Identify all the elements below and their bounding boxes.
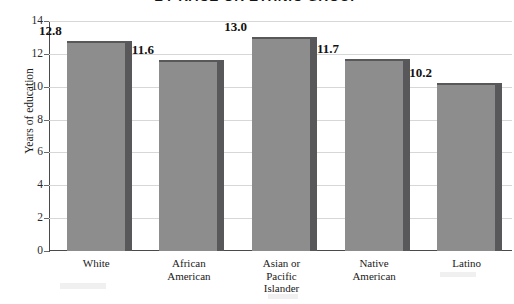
x-category-label-line: American	[143, 270, 236, 283]
bar-face	[345, 59, 410, 251]
x-category-label-line: Islander	[235, 282, 328, 295]
bar	[252, 37, 317, 251]
bar-top-edge	[159, 60, 224, 62]
y-tick-mark	[44, 218, 49, 219]
bar-value-label: 13.0	[203, 20, 268, 33]
y-tick-label: 2	[19, 212, 43, 224]
y-tick-mark	[44, 120, 49, 121]
bar-top-edge	[437, 83, 502, 85]
y-tick-mark	[44, 152, 49, 153]
x-category-label-line: White	[50, 257, 143, 270]
bar	[345, 59, 410, 251]
bar-value-label: 11.7	[296, 42, 361, 55]
y-tick-mark	[44, 251, 49, 252]
y-tick-mark	[44, 54, 49, 55]
y-tick-mark	[44, 87, 49, 88]
y-tick-label: 8	[19, 114, 43, 126]
x-category-label: White	[50, 257, 143, 270]
x-category-label: AfricanAmerican	[143, 257, 236, 282]
bar-side-face	[310, 37, 317, 251]
y-tick-mark	[44, 185, 49, 186]
x-category-label-line: Native	[328, 257, 421, 270]
y-tick-mark	[44, 21, 49, 22]
bar-side-face	[403, 59, 410, 251]
bar-top-edge	[67, 41, 132, 43]
y-tick-label: 6	[19, 146, 43, 158]
bar-face	[437, 83, 502, 251]
bar-face	[67, 41, 132, 251]
bar-face	[252, 37, 317, 251]
bar-top-edge	[252, 37, 317, 39]
scan-artifact	[60, 283, 106, 289]
bar-value-label: 12.8	[18, 24, 83, 37]
bar-top-edge	[345, 59, 410, 61]
scan-artifact	[268, 294, 298, 299]
bar	[67, 41, 132, 251]
x-category-label-line: Pacific	[235, 270, 328, 283]
bar	[159, 60, 224, 251]
bar-chart: BY RACE OR ETHNIC GROUP Years of educati…	[0, 0, 514, 304]
bar	[437, 83, 502, 251]
x-category-label: Latino	[420, 257, 513, 270]
x-category-label: Asian orPacificIslander	[235, 257, 328, 295]
bar-value-label: 11.6	[110, 43, 175, 56]
bar-side-face	[495, 83, 502, 251]
bar-face	[159, 60, 224, 251]
scan-artifact	[440, 272, 476, 277]
y-tick-label: 12	[19, 48, 43, 60]
bar-side-face	[217, 60, 224, 251]
y-tick-label: 0	[19, 245, 43, 257]
x-category-label: NativeAmerican	[328, 257, 421, 282]
gridline	[49, 21, 512, 22]
x-category-label-line: African	[143, 257, 236, 270]
chart-title: BY RACE OR ETHNIC GROUP	[0, 0, 514, 4]
bar-value-label: 10.2	[388, 66, 453, 79]
x-category-label-line: Asian or	[235, 257, 328, 270]
x-category-label-line: American	[328, 270, 421, 283]
y-tick-label: 4	[19, 179, 43, 191]
bar-side-face	[125, 41, 132, 251]
x-category-label-line: Latino	[420, 257, 513, 270]
y-tick-label: 10	[19, 81, 43, 93]
